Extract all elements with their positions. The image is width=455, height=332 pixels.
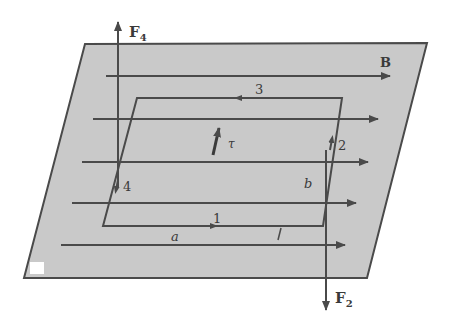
- force-f2-label: F2: [335, 289, 353, 309]
- field-b-label: B: [380, 55, 391, 70]
- current-loop-diagram: F4 F2 B 3 2 4 1 τ a b: [0, 0, 455, 332]
- side-2-label: 2: [338, 138, 346, 153]
- field-plane: [24, 43, 427, 278]
- side-3-label: 3: [255, 82, 263, 97]
- force-f4-label: F4: [129, 23, 147, 43]
- side-1-label: 1: [213, 211, 221, 226]
- plane-corner-mark: [30, 262, 44, 274]
- length-a-label: a: [171, 229, 179, 244]
- torque-label: τ: [228, 137, 235, 151]
- side-4-label: 4: [123, 179, 131, 194]
- length-b-label: b: [304, 176, 312, 191]
